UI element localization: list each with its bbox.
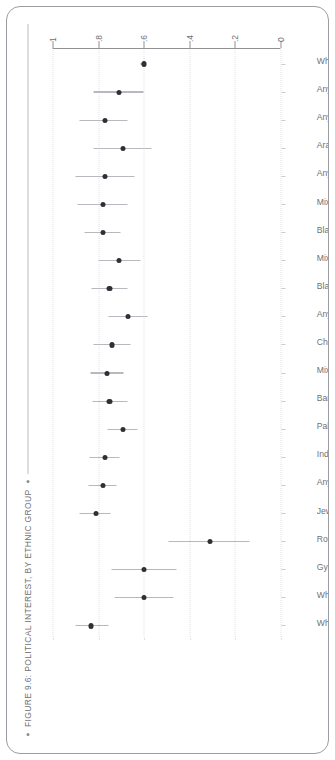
data-point-marker[interactable] — [120, 146, 125, 151]
chart-container: 0.2.4.6.81 White Irish.83White Eastern E… — [46, 24, 314, 736]
category-label: Mixed White and Asian.76 — [316, 366, 329, 375]
category-name: Any other Asian background — [316, 309, 329, 319]
value-axis-tick — [52, 41, 53, 48]
category-axis-tick — [281, 597, 285, 598]
category-label: Any other Black background.77 — [316, 169, 329, 178]
data-point-marker[interactable] — [120, 427, 125, 432]
value-axis-tick — [189, 41, 190, 48]
data-point-marker[interactable] — [104, 371, 109, 376]
category-label: Any other White background.78 — [316, 478, 329, 487]
category-axis-tick — [281, 232, 285, 233]
figure-caption: FIGURE 9.6: POLITICAL INTEREST, BY ETHNI… — [22, 24, 32, 736]
category-label: Black Caribbean.75 — [316, 282, 329, 291]
data-point-marker[interactable] — [102, 174, 107, 179]
data-point-marker[interactable] — [109, 342, 114, 347]
caption-rule — [27, 24, 28, 475]
value-axis-tick — [143, 41, 144, 48]
data-point-marker[interactable] — [102, 118, 107, 123]
category-label: Chinese.74 — [316, 338, 329, 347]
plot-area: 0.2.4.6.81 — [52, 50, 280, 640]
category-name: Any other White background — [316, 477, 329, 487]
value-axis-tick-label: .4 — [184, 26, 194, 42]
category-label: Any other Asian background.67 — [316, 310, 329, 319]
category-name: White British — [316, 56, 329, 66]
data-point-marker[interactable] — [93, 511, 98, 516]
value-axis-tick-label: .8 — [93, 26, 103, 42]
category-name: Pakistani — [316, 421, 329, 431]
category-name: Any other ethnic group — [316, 84, 329, 94]
value-axis-line — [52, 48, 280, 49]
data-point-marker[interactable] — [106, 399, 111, 404]
category-label: White Irish.83 — [316, 619, 329, 628]
category-name: Mixed White and Black African — [316, 196, 329, 206]
figure-page: FIGURE 9.6: POLITICAL INTEREST, BY ETHNI… — [6, 6, 329, 754]
category-name: White Irish — [316, 618, 329, 628]
category-name: Arab — [316, 140, 329, 150]
data-point-marker[interactable] — [100, 483, 105, 488]
category-label: Jewish.81 — [316, 506, 329, 515]
category-label: Arab.69 — [316, 141, 329, 150]
category-name: Chinese — [316, 337, 329, 347]
category-axis-tick — [281, 316, 285, 317]
category-axis-tick — [281, 345, 285, 346]
category-label: White Eastern European.60 — [316, 591, 329, 600]
category-label: Mixed White and Black African.78 — [316, 197, 329, 206]
data-point-marker[interactable] — [207, 539, 212, 544]
category-axis-tick — [281, 485, 285, 486]
category-label: Any other ethnic group.71 — [316, 85, 329, 94]
category-label: Any other mixed/multiple background.77 — [316, 113, 329, 122]
category-axis-tick — [281, 120, 285, 121]
data-point-marker[interactable] — [125, 314, 130, 319]
category-label: Indian.77 — [316, 450, 329, 459]
rotated-figure-canvas: FIGURE 9.6: POLITICAL INTEREST, BY ETHNI… — [6, 6, 329, 754]
value-axis-tick-label: 0 — [275, 26, 285, 42]
data-point-marker[interactable] — [141, 595, 146, 600]
value-axis-tick-label: 1 — [47, 26, 57, 42]
data-point-marker[interactable] — [106, 286, 111, 291]
category-axis-tick — [281, 513, 285, 514]
value-axis-tick — [234, 41, 235, 48]
data-point-marker[interactable] — [116, 90, 121, 95]
data-point-marker[interactable] — [100, 202, 105, 207]
category-name: Black African — [316, 224, 329, 234]
category-name: Gypsy/Traveller — [316, 561, 329, 571]
category-axis-tick — [281, 288, 285, 289]
gridline — [143, 50, 144, 640]
category-label: Mixed White and Black Caribbean.71 — [316, 253, 329, 262]
category-label: White British.60 — [316, 57, 329, 66]
category-axis-tick — [281, 176, 285, 177]
category-axis-tick — [281, 204, 285, 205]
category-axis-tick — [281, 429, 285, 430]
category-name: Indian — [316, 449, 329, 459]
category-axis-tick — [281, 92, 285, 93]
category-name: Mixed White and Black Caribbean — [316, 252, 329, 262]
data-point-marker[interactable] — [116, 258, 121, 263]
value-axis-tick-label: .2 — [229, 26, 239, 42]
value-axis-tick-label: .6 — [138, 26, 148, 42]
data-point-marker[interactable] — [100, 230, 105, 235]
data-point-marker[interactable] — [141, 567, 146, 572]
category-label: Bangladeshi.75 — [316, 394, 329, 403]
data-point-marker[interactable] — [141, 61, 146, 66]
category-axis-tick — [281, 569, 285, 570]
category-axis-tick — [281, 457, 285, 458]
category-label: Roma.31 — [316, 534, 329, 543]
category-axis-tick — [281, 401, 285, 402]
category-axis-tick — [281, 148, 285, 149]
category-name: White Eastern European — [316, 590, 329, 600]
category-name: Any other Black background — [316, 168, 329, 178]
data-point-marker[interactable] — [102, 455, 107, 460]
value-axis-tick — [98, 41, 99, 48]
caption-bullet-left-icon — [26, 733, 29, 736]
category-axis-tick — [281, 260, 285, 261]
category-name: Black Caribbean — [316, 281, 329, 291]
figure-caption-text: FIGURE 9.6: POLITICAL INTEREST, BY ETHNI… — [22, 490, 32, 728]
category-axis-tick — [281, 373, 285, 374]
caption-bullet-right-icon — [26, 481, 29, 484]
value-axis-tick — [280, 41, 281, 48]
category-axis-tick — [281, 64, 285, 65]
data-point-marker[interactable] — [88, 623, 93, 628]
category-name: Bangladeshi — [316, 393, 329, 403]
category-label: Black African.78 — [316, 225, 329, 234]
category-label: Pakistani.69 — [316, 422, 329, 431]
